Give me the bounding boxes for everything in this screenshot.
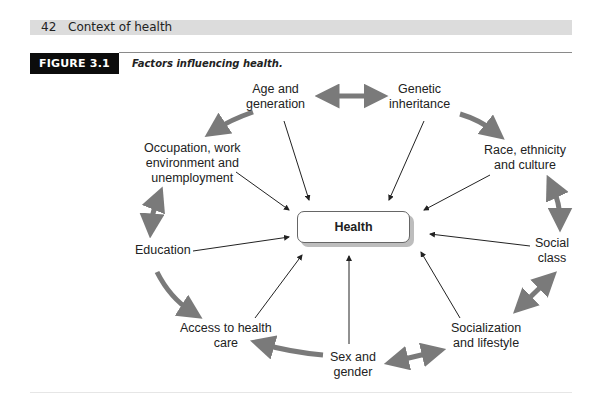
factor-genetic-line1: Genetic <box>389 82 450 97</box>
arrow-socialization-sex <box>396 352 434 361</box>
influence-education <box>193 237 289 251</box>
factor-genetic-line2: inheritance <box>389 97 450 112</box>
influence-genetic <box>389 121 424 200</box>
factor-race: Race, ethnicity and culture <box>484 143 566 173</box>
factor-sex: Sex and gender <box>330 350 376 380</box>
factor-education: Education <box>135 243 191 258</box>
factor-social-class: Social class <box>535 236 569 266</box>
factor-access-line2: care <box>180 336 272 351</box>
factor-social-line1: Social <box>535 236 569 251</box>
factor-age-line1: Age and <box>246 82 305 97</box>
factor-sex-line1: Sex and <box>330 350 376 365</box>
arrow-genetic-race <box>460 114 495 132</box>
bottom-rule <box>30 392 572 393</box>
factor-occupation-line1: Occupation, work <box>144 141 241 156</box>
factor-occupation-line2: environment and <box>144 156 241 171</box>
factor-socialization: Socialization and lifestyle <box>451 321 521 351</box>
factor-occupation-line3: unemployment <box>144 171 241 186</box>
factor-age-line2: generation <box>246 97 305 112</box>
factor-sex-line2: gender <box>330 365 376 380</box>
factor-access-line1: Access to health <box>180 321 272 336</box>
factor-socialization-line2: and lifestyle <box>451 336 521 351</box>
arrow-education-access <box>157 272 192 312</box>
factor-education-line1: Education <box>135 243 191 258</box>
factor-access: Access to health care <box>180 321 272 351</box>
health-node: Health <box>297 211 410 243</box>
arrow-social-socialization <box>522 280 548 305</box>
health-label: Health <box>334 220 372 234</box>
influence-race <box>424 175 490 210</box>
influence-occupation <box>236 172 289 210</box>
arrow-age-occupation <box>215 112 253 130</box>
influence-access <box>255 255 302 318</box>
factor-race-line2: and culture <box>484 158 566 173</box>
factor-genetic: Genetic inheritance <box>389 82 450 112</box>
influence-socialization <box>421 252 460 318</box>
arrow-occupation-education <box>151 198 158 226</box>
factor-socialization-line1: Socialization <box>451 321 521 336</box>
arrow-race-social <box>552 186 560 220</box>
factor-age: Age and generation <box>246 82 305 112</box>
factor-social-line2: class <box>535 251 569 266</box>
factor-race-line1: Race, ethnicity <box>484 143 566 158</box>
influence-social <box>430 234 530 246</box>
influence-age <box>284 121 309 200</box>
factor-occupation: Occupation, work environment and unemplo… <box>144 141 241 186</box>
